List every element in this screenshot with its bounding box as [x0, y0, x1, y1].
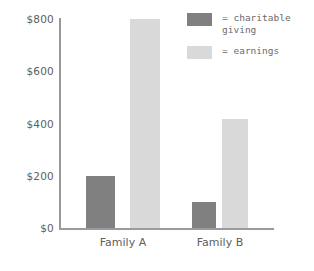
y-tick-label-400: $400	[26, 118, 54, 130]
legend-item-charitable-giving: = charitable giving	[187, 12, 314, 36]
y-tick-label-0: $0	[40, 222, 54, 234]
legend-item-earnings: = earnings	[187, 45, 314, 59]
bar-family-a-charitable-giving	[86, 176, 115, 228]
y-tick-label-600: $600	[26, 65, 54, 77]
bar-family-b-charitable-giving	[192, 202, 216, 228]
x-axis-line	[59, 228, 274, 230]
bar-family-a-earnings	[130, 19, 160, 228]
bar-chart: $800 $600 $400 $200 $0 Family A Family B…	[0, 0, 314, 271]
legend-swatch-charitable-giving	[187, 13, 212, 26]
y-tick-label-200: $200	[26, 170, 54, 182]
legend-swatch-earnings	[187, 46, 212, 59]
legend-label-charitable-giving: = charitable giving	[222, 12, 291, 36]
legend-label-earnings: = earnings	[222, 45, 279, 57]
bar-family-b-earnings	[222, 119, 248, 228]
legend: = charitable giving = earnings	[187, 12, 314, 67]
x-label-family-a: Family A	[75, 236, 171, 249]
y-tick-label-800: $800	[26, 13, 54, 25]
y-axis-tick-labels: $800 $600 $400 $200 $0	[0, 0, 54, 271]
x-label-family-b: Family B	[172, 236, 268, 249]
